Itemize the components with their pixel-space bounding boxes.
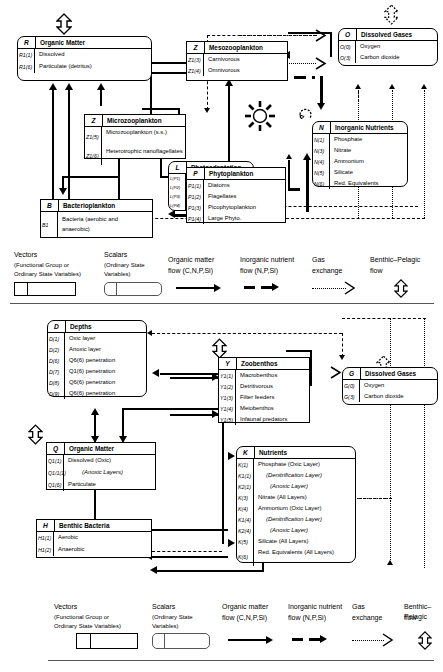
box-benthic-bacteria[interactable]: H Benthic Bacteria H1(1)Aerobic H1(2)Ana… (36, 519, 152, 558)
line-Y-into-2 (170, 414, 218, 416)
legend1-nutrient-arrow (272, 283, 279, 291)
row-Y-2[interactable]: Y1(2)Detritivorous (219, 381, 309, 392)
box-R[interactable]: R Organic Matter R1(1) Dissolved R1(6) P… (17, 36, 152, 81)
legend1-bp-line1: Benthic–Pelagic (370, 255, 420, 265)
row-K-1[interactable]: K(1)Phosphate (Oxic Layer) (237, 459, 355, 470)
row-K-6[interactable]: K1(4)(Denitrification Layer) (237, 514, 355, 525)
row-G-2[interactable]: G(3)Carbon dioxide (343, 391, 437, 402)
row-Y-4[interactable]: Y1(4)Meiobenthos (219, 403, 309, 414)
row-D-5[interactable]: D(8)Q6(6) penetration (48, 377, 146, 388)
row-N-1[interactable]: N(1) Phosphate (313, 134, 407, 145)
row-K-3[interactable]: K2(1)(Anoxic Layer) (237, 481, 355, 492)
arrowhead-N-to-B (168, 210, 175, 218)
box-bacterioplankton[interactable]: B Bacterioplankton B1 Bacteria (aerobic … (40, 199, 153, 238)
benthic-gas-chevron-G (330, 366, 342, 379)
box-zoobenthos[interactable]: Y Zoobenthos Y1(1)Macrobenthos Y1(2)Detr… (218, 357, 310, 423)
box-inorganic-nutrients[interactable]: N Inorganic Nutrients N(1) Phosphate N(3… (312, 121, 408, 187)
row-H-1[interactable]: H1(1)Aerobic (37, 532, 151, 544)
row-R-2[interactable]: R1(6) Particulate (detritus) (18, 61, 151, 73)
row-N-2[interactable]: N(3) Nitrate (313, 145, 407, 156)
row-K-4[interactable]: K(3)Nitrate (All Layers) (237, 492, 355, 503)
row-P-3-label: Picophytoplankton (204, 202, 285, 212)
row-K-3-label: (Anoxic Layer) (254, 481, 355, 491)
row-D-6-label: Q6(6) penetration (65, 388, 146, 398)
legend1-bp-line2: flow (370, 266, 382, 276)
row-Y-1[interactable]: Y1(1)Macrobenthos (219, 370, 309, 381)
box-phytoplankton[interactable]: P Phytoplankton P1(1) Diatoms P1(2) Flag… (186, 167, 286, 223)
box-dissolved-gases-pelagic[interactable]: O Dissolved Gases O(0) Oxygen O(3) Carbo… (338, 28, 438, 66)
box-R-title: Organic Matter (36, 37, 151, 48)
row-D-2[interactable]: D(2)Anoxic layer (48, 344, 146, 355)
row-R-1-symbol: R1(1) (18, 49, 35, 61)
row-Y-1-label: Macrobenthos (236, 370, 309, 380)
row-B-1[interactable]: B1 Bacteria (aerobic and anaerobic) (41, 212, 152, 237)
row-D-6[interactable]: D(9)Q6(6) penetration (48, 388, 146, 399)
box-micro-title: Microzooplankton (103, 115, 185, 126)
row-G-1[interactable]: G(0)Oxygen (343, 380, 437, 391)
arrowhead-K-to-H (150, 566, 157, 574)
row-N-3[interactable]: N(4) Ammonium (313, 156, 407, 167)
row-D-1[interactable]: D(1)Oxic layer (48, 333, 146, 344)
box-nutrients-benthic[interactable]: K Nutrients K(1)Phosphate (Oxic Layer) K… (236, 446, 356, 563)
row-P-4-label: Large Phyto. (204, 213, 285, 223)
row-H-2-symbol: H1(2) (37, 544, 54, 556)
line-Y-loop-top (286, 350, 312, 352)
row-K-2[interactable]: K1(1)(Denitrification Layer) (237, 470, 355, 481)
box-G-header: G Dissolved Gases (343, 368, 437, 380)
box-O-body: O(0) Oxygen O(3) Carbon dioxide (339, 41, 437, 63)
row-H-2[interactable]: H1(2)Anaerobic (37, 544, 151, 556)
arrowhead-into-B (59, 188, 67, 195)
arrowhead-micro-to-R (97, 83, 105, 90)
row-micro-2-label: Heterotrophic nanoflagellates (102, 146, 185, 156)
row-K-7[interactable]: K2(4)(Anoxic Layer) (237, 525, 355, 536)
box-micro-symbol: Z (85, 115, 103, 126)
box-K-header: K Nutrients (237, 447, 355, 459)
row-Y-4-label: Meiobenthos (236, 403, 309, 413)
legend2-gas-line2: exchange (352, 613, 382, 623)
row-G-1-label: Oxygen (360, 380, 437, 390)
line-B-to-N-v (306, 160, 309, 212)
legend1-nutrient-line1: Inorganic nutrient (240, 255, 294, 265)
legend2-vectors-title: Vectors (54, 602, 77, 612)
legend1-vector-swatch (14, 282, 76, 296)
legend2-gas-chevron (382, 633, 394, 647)
row-O-2[interactable]: O(3) Carbon dioxide (339, 52, 437, 63)
row-P-3[interactable]: P1(3) Picophytoplankton (187, 202, 285, 213)
box-O-symbol: O (339, 29, 357, 40)
benthic-pelagic-arrow-Q (28, 424, 43, 449)
row-micro-1[interactable]: Z1(5) Microzooplankton (s.s.) (85, 127, 185, 146)
row-R-1[interactable]: R1(1) Dissolved (18, 49, 151, 61)
legend1-vectors-title: Vectors (14, 250, 37, 260)
row-D-1-label: Oxic layer (65, 333, 146, 343)
row-K-9[interactable]: K(6)Red. Equivalents (All Layers) (237, 547, 355, 566)
row-K-5[interactable]: K(4)Ammonium (Oxic Layer) (237, 503, 355, 514)
row-P-1[interactable]: P1(1) Diatoms (187, 180, 285, 191)
row-D-5-symbol: D(8) (48, 377, 65, 388)
row-N-5[interactable]: N(6) Red. Equivalents (313, 178, 407, 189)
row-P-4[interactable]: P1(4) Large Phyto. (187, 213, 285, 224)
row-Q-3[interactable]: Q1(6)Particulate (47, 479, 155, 491)
row-Q-2[interactable]: Q1/1(1)(Anoxic Layers) (47, 467, 155, 479)
box-dissolved-gases-benthic[interactable]: G Dissolved Gases G(0)Oxygen G(3)Carbon … (342, 367, 438, 405)
box-microzooplankton[interactable]: Z Microzooplankton Z1(5) Microzooplankto… (84, 114, 186, 159)
row-O-1[interactable]: O(0) Oxygen (339, 41, 437, 52)
row-D-4[interactable]: D(7)Q1(6) penetration (48, 366, 146, 377)
row-meso-1[interactable]: Z1(3) Carnivorous (187, 54, 287, 65)
box-mesozooplankton[interactable]: Z Mesozooplankton Z1(3) Carnivorous Z1(4… (186, 41, 288, 81)
legend2-nutrient-line1: Inorganic nutrient (288, 602, 342, 612)
row-meso-2[interactable]: Z1(4) Omnivorous (187, 65, 287, 76)
row-meso-1-symbol: Z1(3) (187, 54, 204, 65)
row-Q-1[interactable]: Q1(1)Dissolved (Oxic) (47, 455, 155, 467)
row-D-3[interactable]: D(6)Q6(6) penetration (48, 355, 146, 366)
row-Y-5[interactable]: Y1(5)Infaunal predators (219, 414, 309, 425)
row-L-1-symbol: L(P1) (169, 174, 186, 183)
row-micro-1-label: Microzooplankton (s.s.) (102, 127, 185, 137)
row-N-4[interactable]: N(5) Silicate (313, 167, 407, 178)
box-depths[interactable]: D Depths D(1)Oxic layer D(2)Anoxic layer… (47, 320, 147, 397)
row-Y-3[interactable]: Y1(3)Filter feeders (219, 392, 309, 403)
row-K-8[interactable]: K(5)Silicate (All Layers) (237, 536, 355, 547)
box-G-symbol: G (343, 368, 361, 379)
row-P-2[interactable]: P1(2) Flagellates (187, 191, 285, 202)
box-organic-matter-benthic[interactable]: Q Organic Matter Q1(1)Dissolved (Oxic) Q… (46, 442, 156, 490)
box-R-symbol: R (18, 37, 36, 48)
